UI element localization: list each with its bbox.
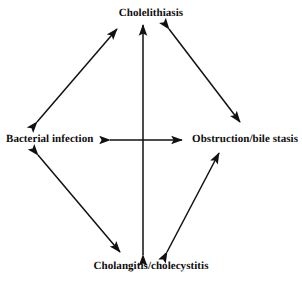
- node-bacterial-infection: Bacterial infection: [6, 133, 93, 146]
- node-obstruction-bile-stasis: Obstruction/bile stasis: [192, 133, 298, 146]
- edge-top-right: [169, 29, 240, 122]
- node-cholelithiasis: Cholelithiasis: [119, 7, 183, 20]
- edge-bottom-right: [167, 153, 219, 252]
- diagram-canvas: Cholelithiasis Bacterial infection Obstr…: [0, 0, 302, 281]
- edge-top-left: [37, 29, 117, 122]
- edge-bottom-left: [38, 155, 120, 252]
- node-cholangitis-cholecystitis: Cholangitis/cholecystitis: [94, 260, 209, 273]
